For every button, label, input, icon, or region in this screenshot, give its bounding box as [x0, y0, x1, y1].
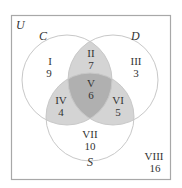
- region-iv-count: 4: [58, 106, 64, 118]
- region-iii-numeral: III: [131, 55, 142, 67]
- region-vii-numeral: VII: [82, 128, 98, 140]
- region-ii-count: 7: [88, 59, 94, 71]
- universe-label: U: [16, 18, 26, 32]
- set-label-c: C: [39, 29, 48, 43]
- region-i-count: 9: [46, 67, 52, 79]
- region-ii-numeral: II: [87, 47, 95, 59]
- region-v-count: 6: [88, 89, 94, 101]
- region-i-numeral: I: [48, 55, 52, 67]
- region-vi-numeral: VI: [112, 94, 124, 106]
- region-viii-count: 16: [150, 162, 162, 174]
- set-label-d: D: [130, 29, 140, 43]
- region-vi-count: 5: [115, 106, 121, 118]
- set-label-s: S: [87, 155, 93, 169]
- region-viii-numeral: VIII: [145, 150, 164, 162]
- venn-diagram: U C D S I 9 II 7 III 3 IV 4 V 6 VI 5 VII…: [0, 0, 182, 188]
- region-iii-count: 3: [133, 67, 139, 79]
- region-v-numeral: V: [87, 77, 95, 89]
- region-vii-count: 10: [85, 140, 97, 152]
- region-iv-numeral: IV: [55, 94, 67, 106]
